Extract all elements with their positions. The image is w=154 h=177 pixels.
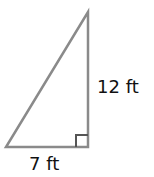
right-angle-marker: [76, 135, 88, 147]
height-label: 12 ft: [97, 78, 139, 96]
triangle: [6, 12, 88, 147]
base-label: 7 ft: [29, 155, 59, 173]
